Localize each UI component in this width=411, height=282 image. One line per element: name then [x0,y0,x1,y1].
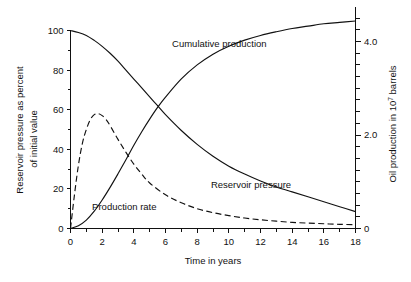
left-tick-label: 60 [53,104,64,115]
series-path-cumulative-production [71,21,356,229]
series-label: Cumulative production [172,38,267,49]
y2-axis-title-group: Oil production in 107 barrels [387,65,398,182]
bottom-axis-ticks: 024681012141618 [68,229,361,247]
right-axis-ticks: 02.04.0 [356,18,378,234]
series-label: Reservoir pressure [211,179,291,190]
right-tick-label: 4.0 [364,36,377,47]
right-tick-label: 2.0 [364,129,377,140]
y2-axis-title: Oil production in 107 barrels [387,65,398,182]
x-axis-title: Time in years [185,255,242,266]
bottom-tick-label: 14 [287,236,298,247]
series-label: Production rate [92,201,156,212]
left-tick-label: 80 [53,65,64,76]
figure-container: 020406080100 024681012141618 02.04.0 Cum… [0,0,411,282]
left-tick-label: 0 [58,223,63,234]
bottom-tick-label: 10 [224,236,235,247]
reservoir-production-chart: 020406080100 024681012141618 02.04.0 Cum… [0,0,411,282]
series-annotations: Cumulative productionReservoir pressureP… [92,38,291,212]
left-tick-label: 100 [48,25,64,36]
bottom-tick-label: 18 [350,236,361,247]
left-tick-label: 20 [53,183,64,194]
left-tick-label: 40 [53,144,64,155]
bottom-tick-label: 2 [100,236,105,247]
left-axis-ticks: 020406080100 [48,25,71,234]
bottom-tick-label: 8 [195,236,200,247]
series-group [71,21,356,229]
y-axis-title-line1: Reservoir pressure as percent [14,66,25,194]
bottom-tick-label: 16 [319,236,330,247]
y-axis-title-line2: of initial value [28,110,39,168]
bottom-tick-label: 6 [163,236,168,247]
bottom-tick-label: 12 [255,236,266,247]
right-tick-label: 0 [364,223,369,234]
bottom-tick-label: 4 [131,236,136,247]
bottom-tick-label: 0 [68,236,73,247]
